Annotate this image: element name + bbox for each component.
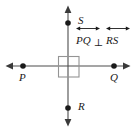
- point-label-p: P: [19, 72, 26, 83]
- arrowhead-up-icon: [65, 6, 72, 14]
- geometry-figure: P Q S R PQ ⊥ RS: [0, 0, 136, 130]
- perpendicular-symbol: ⊥: [94, 37, 103, 48]
- point-dot-r: [65, 105, 71, 111]
- double-arrow-overline-icon: [106, 26, 130, 31]
- line-notation-pq: PQ: [76, 25, 91, 48]
- double-arrow-overline-icon: [76, 26, 100, 31]
- point-dot-p: [20, 63, 26, 69]
- arrowhead-left-icon: [6, 63, 14, 70]
- right-angle-marker: [59, 57, 80, 78]
- line-notation-rs-text: RS: [106, 34, 118, 46]
- point-label-r: R: [78, 101, 85, 112]
- line-notation-pq-text: PQ: [76, 34, 91, 46]
- point-dot-q: [111, 63, 117, 69]
- line-notation-rs: RS: [106, 25, 118, 48]
- relation-statement: PQ ⊥ RS: [76, 25, 118, 48]
- arrowhead-right-icon: [123, 63, 131, 70]
- point-dot-s: [65, 20, 71, 26]
- arrowhead-down-icon: [65, 119, 72, 127]
- point-label-q: Q: [110, 72, 118, 83]
- figure-canvas: [0, 0, 136, 130]
